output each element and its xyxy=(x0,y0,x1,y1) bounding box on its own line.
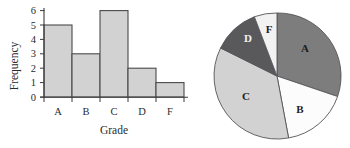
x-axis-tick-labels: A B C D F xyxy=(54,106,173,117)
pie-chart-figure: A B C D F xyxy=(190,0,350,148)
pie-label-D: D xyxy=(244,32,252,44)
bar-C xyxy=(100,11,128,97)
x-axis-title: Grade xyxy=(100,124,128,136)
pie-label-B: B xyxy=(296,103,304,115)
bar-D xyxy=(128,68,156,97)
y-tick-5: 5 xyxy=(31,20,36,31)
y-tick-1: 1 xyxy=(31,77,36,88)
x-axis-ticks xyxy=(44,97,184,102)
bar-B xyxy=(72,54,100,97)
y-tick-6: 6 xyxy=(31,5,36,16)
bar-F xyxy=(156,83,184,97)
x-tick-D: D xyxy=(138,106,146,117)
y-axis-title: Frequency xyxy=(8,41,21,90)
bar-series xyxy=(44,11,184,97)
x-tick-A: A xyxy=(54,106,62,117)
x-tick-F: F xyxy=(167,106,173,117)
x-tick-B: B xyxy=(82,106,89,117)
bar-A xyxy=(44,25,72,97)
y-tick-3: 3 xyxy=(31,48,36,59)
y-axis-tick-labels: 0 1 2 3 4 5 6 xyxy=(31,5,37,102)
pie-label-F: F xyxy=(266,23,273,35)
figure-pair-container: Frequency 0 1 2 3 4 5 6 xyxy=(0,0,350,148)
pie-label-A: A xyxy=(301,42,309,54)
y-tick-0: 0 xyxy=(31,92,36,103)
pie-label-C: C xyxy=(242,90,250,102)
bar-chart-svg: Frequency 0 1 2 3 4 5 6 xyxy=(0,0,190,148)
x-tick-C: C xyxy=(110,106,117,117)
pie-chart-svg: A B C D F xyxy=(190,0,350,148)
y-tick-4: 4 xyxy=(31,34,37,45)
y-tick-2: 2 xyxy=(31,63,36,74)
pie-slices xyxy=(214,13,341,139)
bar-chart-figure: Frequency 0 1 2 3 4 5 6 xyxy=(0,0,190,148)
